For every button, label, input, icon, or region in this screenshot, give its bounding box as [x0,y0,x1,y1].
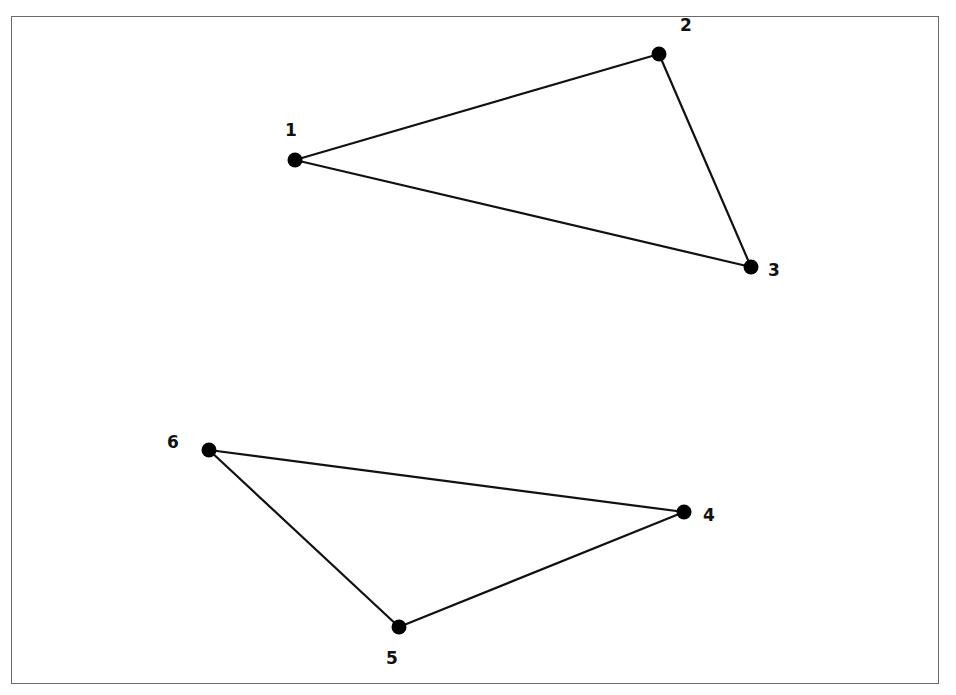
graph-canvas [0,0,956,695]
vertex-3 [744,260,759,275]
vertex-label-3: 3 [768,262,780,279]
edge-4-5 [399,512,684,627]
vertex-4 [677,505,692,520]
edge-1-2 [295,54,659,160]
vertex-1 [288,153,303,168]
vertex-label-4: 4 [703,507,715,524]
edge-2-3 [659,54,751,267]
vertex-5 [392,620,407,635]
edge-6-4 [209,450,684,512]
vertex-6 [202,443,217,458]
edge-3-1 [295,160,751,267]
vertex-label-2: 2 [680,17,692,34]
vertex-label-5: 5 [386,650,398,667]
vertex-label-1: 1 [285,122,297,139]
edge-5-6 [209,450,399,627]
vertex-2 [652,47,667,62]
vertex-label-6: 6 [167,434,179,451]
